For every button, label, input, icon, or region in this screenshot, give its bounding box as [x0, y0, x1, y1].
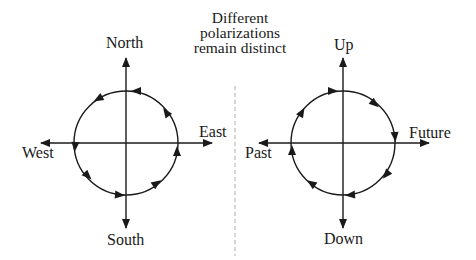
right-compass	[259, 58, 429, 228]
label-past: Past	[245, 145, 272, 161]
label-east: East	[199, 124, 227, 140]
label-south: South	[107, 232, 144, 248]
title-line-3: remain distinct	[180, 40, 300, 55]
label-up: Up	[334, 37, 354, 53]
label-down: Down	[324, 231, 363, 247]
label-west: West	[22, 145, 54, 161]
title-line-1: Different	[180, 10, 300, 25]
label-north: North	[106, 35, 143, 51]
title-line-2: polarizations	[180, 25, 300, 40]
label-future: Future	[409, 125, 451, 141]
left-compass	[41, 58, 212, 228]
diagram-title: Different polarizations remain distinct	[180, 10, 300, 55]
